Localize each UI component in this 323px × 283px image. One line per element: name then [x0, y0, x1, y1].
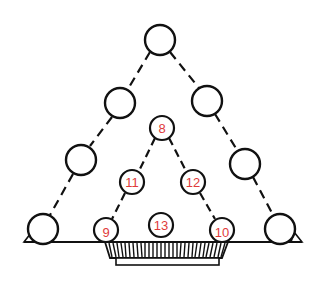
- circle-right-lower: [230, 149, 260, 179]
- label-10: 10: [215, 225, 229, 240]
- edge-8-11: [139, 138, 155, 171]
- label-12: 12: [186, 175, 200, 190]
- edge-8-12: [169, 138, 186, 171]
- label-8: 8: [158, 121, 165, 136]
- edge-top-right-upper: [170, 52, 199, 88]
- circle-bottom-left: [28, 214, 58, 244]
- basket-tray: [116, 258, 219, 265]
- edge-11-9: [112, 193, 125, 219]
- circle-left-lower: [66, 145, 96, 175]
- basket: [105, 242, 228, 265]
- edge-left-upper-left-lower: [90, 117, 112, 146]
- triangle-diagram: 8 11 12 9 13 10: [0, 0, 323, 283]
- edge-right-lower-bottom-right: [253, 177, 273, 215]
- circle-bottom-right: [265, 214, 295, 244]
- circle-left-upper: [105, 88, 135, 118]
- circle-right-upper: [192, 86, 222, 116]
- edge-right-upper-right-lower: [215, 114, 237, 150]
- label-11: 11: [125, 175, 139, 190]
- circle-top: [145, 25, 175, 55]
- edge-12-10: [200, 193, 215, 219]
- label-13: 13: [154, 218, 168, 233]
- edge-left-lower-bottom-left: [50, 174, 73, 215]
- edge-top-left-upper: [128, 52, 150, 89]
- label-9: 9: [102, 225, 109, 240]
